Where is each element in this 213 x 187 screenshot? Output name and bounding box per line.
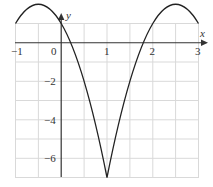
y-tick-neg2: −2 xyxy=(44,75,56,87)
x-tick-2: 2 xyxy=(150,45,156,57)
y-tick-neg6: −6 xyxy=(44,152,56,164)
x-axis-label: x xyxy=(199,27,205,39)
x-tick-0: 0 xyxy=(51,45,57,57)
y-axis-label: y xyxy=(65,9,71,21)
x-tick-3: 3 xyxy=(195,45,201,57)
x-axis-arrow-icon xyxy=(201,40,208,47)
x-tick-neg1: −1 xyxy=(11,45,23,57)
chart: x y −1 0 1 2 3 −2 −4 −6 xyxy=(0,0,213,187)
y-tick-neg4: −4 xyxy=(44,114,56,126)
x-tick-1: 1 xyxy=(104,45,110,57)
